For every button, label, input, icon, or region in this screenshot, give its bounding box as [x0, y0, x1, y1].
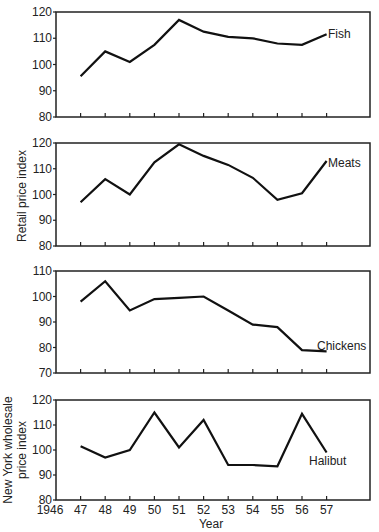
panel-fish-y-ticks: 8090100110120 — [32, 5, 56, 124]
retail-price-y-axis-title: Retail price index — [15, 150, 29, 242]
meats-series-label: Meats — [328, 156, 361, 170]
y-tick-label: 120 — [32, 5, 52, 19]
panel-halibut: 8090100110120 Halibut — [32, 393, 370, 507]
wholesale-price-y-axis-title-line1: New York wholesale — [1, 396, 15, 504]
x-tick-label: 50 — [148, 503, 162, 517]
y-tick-label: 90 — [39, 315, 53, 329]
x-tick-label: 52 — [197, 503, 211, 517]
panel-halibut-frame — [56, 400, 370, 500]
y-tick-label: 110 — [33, 418, 52, 432]
y-tick-label: 100 — [32, 443, 52, 457]
x-tick-label: 1946 — [37, 503, 64, 517]
x-tick-label: 54 — [246, 503, 260, 517]
fish-line — [81, 20, 327, 76]
halibut-series-label: Halibut — [309, 454, 347, 468]
y-tick-label: 120 — [32, 136, 52, 150]
panel-fish: 8090100110120 Fish — [32, 5, 370, 124]
y-tick-label: 110 — [33, 162, 52, 176]
y-tick-label: 80 — [39, 341, 53, 355]
meats-line — [81, 144, 327, 202]
panel-meats: 8090100110120 Meats — [32, 136, 370, 253]
y-tick-label: 70 — [39, 366, 53, 380]
y-tick-label: 110 — [33, 264, 52, 278]
fish-series-label: Fish — [328, 27, 351, 41]
x-tick-label: 49 — [123, 503, 137, 517]
y-tick-label: 110 — [33, 31, 52, 45]
panel-meats-y-ticks: 8090100110120 — [32, 136, 56, 253]
x-tick-label: 53 — [222, 503, 236, 517]
y-tick-label: 100 — [32, 290, 52, 304]
x-tick-label: 48 — [99, 503, 113, 517]
chickens-line — [81, 281, 327, 351]
x-axis-tick-labels: 19464748495051525354555657 — [37, 503, 334, 517]
y-tick-label: 100 — [32, 58, 52, 72]
x-tick-label: 56 — [295, 503, 309, 517]
y-tick-label: 90 — [39, 468, 53, 482]
y-tick-label: 100 — [32, 188, 52, 202]
wholesale-price-y-axis-title-line2: price index — [15, 421, 29, 479]
x-tick-label: 57 — [320, 503, 334, 517]
y-tick-label: 80 — [39, 239, 53, 253]
panel-chickens-y-ticks: 708090100110 — [32, 264, 56, 380]
panel-fish-frame — [56, 12, 370, 117]
panel-chickens: 708090100110 Chickens — [32, 264, 370, 380]
x-tick-label: 55 — [271, 503, 285, 517]
panel-halibut-y-ticks: 8090100110120 — [32, 393, 56, 507]
y-tick-label: 80 — [39, 110, 53, 124]
y-tick-label: 120 — [32, 393, 52, 407]
x-tick-label: 47 — [74, 503, 88, 517]
x-axis-title: Year — [199, 517, 223, 531]
x-tick-label: 51 — [172, 503, 186, 517]
chickens-series-label: Chickens — [317, 339, 366, 353]
price-index-chart: 8090100110120 Fish 8090100110120 Meats 7… — [0, 0, 379, 532]
y-tick-label: 90 — [39, 84, 53, 98]
halibut-line — [81, 413, 327, 467]
panel-chickens-frame — [56, 271, 370, 373]
y-tick-label: 90 — [39, 213, 53, 227]
